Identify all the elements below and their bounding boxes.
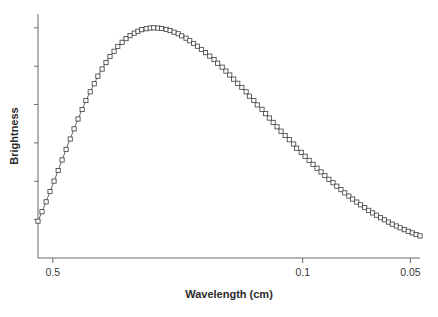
data-point-marker (359, 203, 363, 207)
data-point-marker (64, 147, 68, 151)
data-point-marker (236, 81, 240, 85)
data-point-marker (311, 162, 315, 166)
data-point-marker (203, 51, 207, 55)
data-point-marker (275, 125, 279, 129)
data-point-marker (240, 85, 244, 89)
chart-figure: 0.50.10.05 Wavelength (cm) Brightness (0, 0, 438, 317)
data-point-marker (140, 28, 144, 32)
data-point-marker (108, 54, 112, 58)
data-point-marker (44, 200, 48, 204)
x-tick-label-2: 0.05 (400, 266, 421, 278)
data-point-marker (199, 47, 203, 51)
data-point-marker (96, 74, 100, 78)
data-point-marker (160, 26, 164, 30)
data-point-marker (327, 177, 331, 181)
data-point-marker (172, 30, 176, 34)
data-point-marker (68, 137, 72, 141)
data-point-marker (152, 26, 156, 30)
data-point-marker (116, 44, 120, 48)
data-point-marker (247, 94, 251, 98)
data-point-marker (60, 158, 64, 162)
data-point-marker (100, 67, 104, 71)
x-tick-label-0: 0.5 (45, 266, 60, 278)
data-point-marker (418, 234, 422, 238)
x-tick-label-1: 0.1 (295, 266, 310, 278)
data-point-marker (124, 37, 128, 41)
data-point-marker (128, 34, 132, 38)
data-point-marker (76, 117, 80, 121)
data-point-marker (216, 61, 220, 65)
data-point-marker (343, 191, 347, 195)
data-point-marker (363, 205, 367, 209)
data-point-marker (390, 222, 394, 226)
y-axis-label: Brightness (8, 107, 20, 164)
data-point-marker (144, 27, 148, 31)
data-point-marker (398, 226, 402, 230)
data-point-marker (279, 129, 283, 133)
data-point-marker (295, 146, 299, 150)
data-point-marker (244, 90, 248, 94)
data-point-marker (88, 90, 92, 94)
x-axis-label: Wavelength (cm) (185, 288, 273, 300)
data-point-marker (260, 107, 264, 111)
data-point-marker (232, 77, 236, 81)
data-point-marker (252, 98, 256, 102)
data-point-marker (72, 127, 76, 131)
data-point-marker (80, 107, 84, 111)
data-point-marker (351, 197, 355, 201)
data-point-marker (323, 173, 327, 177)
data-point-marker (84, 98, 88, 102)
figure-background (0, 0, 438, 317)
data-point-marker (292, 142, 296, 146)
data-point-marker (104, 60, 108, 64)
data-point-marker (40, 210, 44, 214)
data-point-marker (208, 54, 212, 58)
data-point-marker (303, 154, 307, 158)
data-point-marker (48, 189, 52, 193)
data-point-marker (112, 49, 116, 53)
data-point-marker (168, 28, 172, 32)
data-point-marker (283, 133, 287, 137)
data-point-marker (335, 184, 339, 188)
data-point-marker (52, 179, 56, 183)
data-point-marker (264, 112, 268, 116)
data-point-marker (287, 138, 291, 142)
data-point-marker (374, 213, 378, 217)
brightness-wavelength-plot: 0.50.10.05 Wavelength (cm) Brightness (0, 0, 438, 317)
data-point-marker (195, 44, 199, 48)
data-point-marker (56, 168, 60, 172)
data-point-marker (255, 103, 259, 107)
data-point-marker (271, 120, 275, 124)
data-point-marker (92, 82, 96, 86)
data-point-marker (228, 73, 232, 77)
data-point-marker (406, 229, 410, 233)
data-point-marker (36, 219, 40, 223)
data-point-marker (382, 218, 386, 222)
data-point-marker (267, 116, 271, 120)
data-point-marker (180, 34, 184, 38)
